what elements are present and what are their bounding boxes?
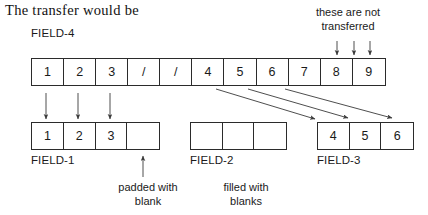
field-1-cell-3	[127, 123, 159, 149]
annotation-filled-with-blanks: filled with blanks	[196, 180, 296, 208]
field-3-cell-2: 6	[381, 123, 413, 149]
field-1-cell-1: 2	[64, 123, 96, 149]
field-3-cell-1: 5	[350, 123, 382, 149]
annotation-filled-line1: filled with	[196, 180, 296, 194]
diagram-canvas: The transfer would be FIELD-4 123//45678…	[0, 0, 428, 215]
annotation-padded-line2: blank	[93, 194, 203, 208]
source-cell-10: 9	[353, 59, 385, 85]
source-cell-7: 6	[257, 59, 289, 85]
annotation-padded-with-blank: padded with blank	[93, 180, 203, 208]
source-cell-5: 4	[192, 59, 224, 85]
annotation-filled-line2: blanks	[196, 194, 296, 208]
field-1-cell-2: 3	[96, 123, 128, 149]
annotation-not-transferred-line1: these are not	[288, 5, 408, 19]
source-cell-0: 1	[32, 59, 64, 85]
arrow-source-5-to-field-3	[248, 89, 348, 118]
field-2-cell-0	[191, 123, 223, 149]
source-field-label: FIELD-4	[31, 27, 75, 39]
source-cell-3: /	[128, 59, 160, 85]
target-field-label-field-3: FIELD-3	[317, 154, 361, 166]
annotation-padded-line1: padded with	[93, 180, 203, 194]
target-row-field-3: 456	[317, 122, 414, 150]
source-row: 123//456789	[31, 58, 386, 86]
source-cell-9: 8	[321, 59, 353, 85]
arrow-source-6-to-field-3	[285, 89, 392, 118]
target-row-field-2	[190, 122, 287, 150]
field-3-cell-0: 4	[318, 123, 350, 149]
source-cell-2: 3	[96, 59, 128, 85]
target-field-label-field-2: FIELD-2	[190, 154, 234, 166]
source-cell-8: 7	[289, 59, 321, 85]
source-cell-6: 5	[224, 59, 256, 85]
field-1-cell-0: 1	[32, 123, 64, 149]
field-3-transfer-arrow-group	[216, 89, 392, 119]
not-transferred-arrow-group	[337, 41, 370, 55]
annotation-not-transferred: these are not transferred	[288, 5, 408, 33]
field-2-cell-2	[254, 123, 286, 149]
target-field-label-field-1: FIELD-1	[31, 154, 75, 166]
arrow-source-4-to-field-3	[216, 89, 315, 119]
source-cell-4: /	[160, 59, 192, 85]
annotation-not-transferred-line2: transferred	[288, 19, 408, 33]
field-2-cell-1	[223, 123, 255, 149]
field-1-transfer-arrow-group	[46, 93, 110, 119]
page-title: The transfer would be	[5, 2, 139, 19]
target-row-field-1: 123	[31, 122, 160, 150]
source-cell-1: 2	[64, 59, 96, 85]
